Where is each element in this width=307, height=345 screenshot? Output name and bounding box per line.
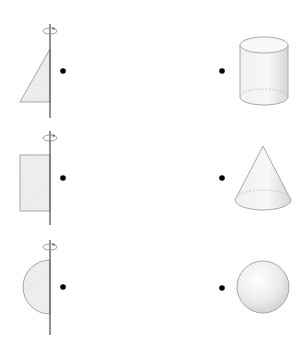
solid-cone <box>235 146 291 210</box>
match-dot-left-1[interactable] <box>60 68 66 74</box>
figure-triangle <box>20 24 57 118</box>
match-dot-right-2[interactable] <box>219 175 225 181</box>
matching-diagram <box>0 0 307 345</box>
figure-semicircle <box>23 240 57 335</box>
match-dot-right-1[interactable] <box>219 68 225 74</box>
match-dot-right-3[interactable] <box>219 285 225 291</box>
solid-cylinder <box>240 37 288 105</box>
match-dot-left-2[interactable] <box>60 175 66 181</box>
match-dot-left-3[interactable] <box>60 284 66 290</box>
figure-rectangle <box>20 131 57 225</box>
solid-sphere <box>237 261 289 313</box>
